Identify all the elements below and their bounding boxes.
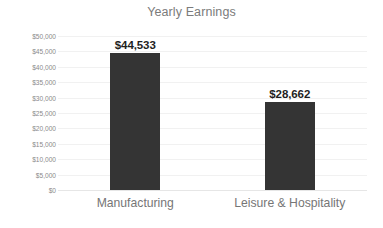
x-axis-category-labels: ManufacturingLeisure & Hospitality xyxy=(58,196,367,222)
y-axis-tick-label: $15,000 xyxy=(0,140,57,147)
bars-layer xyxy=(58,36,367,190)
plot-area: $44,533$28,662 xyxy=(58,36,367,190)
gridline xyxy=(58,190,367,191)
bar-chart: Yearly Earnings $50,000$45,000$40,000$35… xyxy=(0,0,383,228)
y-axis-tick-label: $5,000 xyxy=(0,171,57,178)
y-axis-tick-label: $20,000 xyxy=(0,125,57,132)
chart-title: Yearly Earnings xyxy=(0,5,383,19)
bar-value-label: $44,533 xyxy=(115,39,156,51)
y-axis-tick-label: $10,000 xyxy=(0,156,57,163)
y-axis: $50,000$45,000$40,000$35,000$30,000$25,0… xyxy=(0,36,57,190)
bar[interactable] xyxy=(265,102,315,190)
y-axis-tick-label: $25,000 xyxy=(0,110,57,117)
bar-value-label: $28,662 xyxy=(269,88,310,100)
y-axis-tick-label: $45,000 xyxy=(0,48,57,55)
x-axis-category-label: Manufacturing xyxy=(97,196,174,210)
x-axis-category-label: Leisure & Hospitality xyxy=(234,196,345,210)
y-axis-tick-label: $40,000 xyxy=(0,63,57,70)
y-axis-tick-label: $50,000 xyxy=(0,33,57,40)
bar[interactable] xyxy=(110,53,160,190)
y-axis-tick-label: $0 xyxy=(0,187,57,194)
y-axis-tick-label: $30,000 xyxy=(0,94,57,101)
y-axis-tick-label: $35,000 xyxy=(0,79,57,86)
